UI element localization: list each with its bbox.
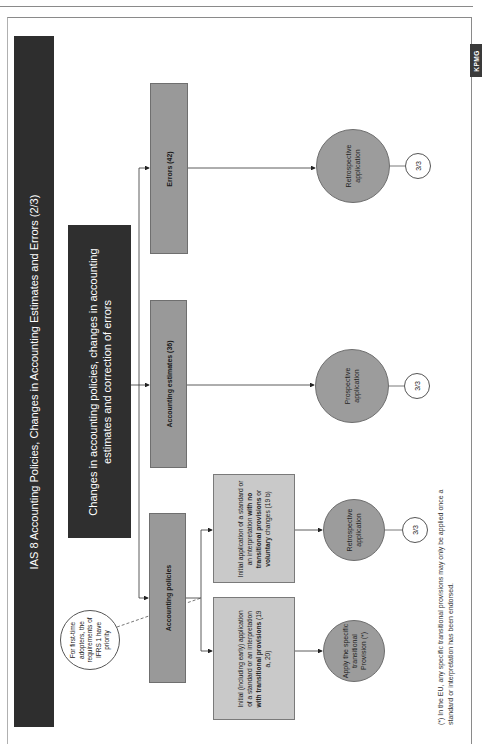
no-transitional-label: Initial application of a standard or an … <box>236 477 272 581</box>
root-box: Changes in accounting policies, changes … <box>68 225 131 538</box>
policies-box: Accounting policies <box>149 513 186 683</box>
root-label: Changes in accounting policies, changes … <box>86 237 114 527</box>
page-ref: 3/3 <box>415 161 422 171</box>
estimates-box: Accounting estimates (36) <box>150 300 187 468</box>
continue-3-3-estimates[interactable]: 3/3 <box>404 373 430 399</box>
transitional-provision-label: Apply the specific transitional Provisio… <box>341 621 368 681</box>
with-transitional-label: Initial (including early) application of… <box>236 607 272 711</box>
errors-outcome-label: Retrospective application <box>344 136 362 196</box>
errors-box: Errors (42) <box>150 83 188 254</box>
errors-label: Errors (42) <box>166 151 173 186</box>
errors-outcome-circle: Retrospective application <box>316 129 390 203</box>
policies-label: Accounting policies <box>164 565 171 632</box>
transitional-provision-circle: Apply the specific transitional Provisio… <box>323 620 385 682</box>
ifrs1-note-circle: For first-time adopters, the requirement… <box>60 610 120 670</box>
continue-3-3-policies[interactable]: 3/3 <box>402 517 428 543</box>
estimates-label: Accounting estimates (36) <box>165 340 172 427</box>
policy-retrospective-circle: Retrospective application <box>323 499 385 561</box>
footnote: (*) In the EU, any specific transitional… <box>433 470 459 720</box>
page-ref: 3/3 <box>414 381 421 391</box>
title-bar: IAS 8 Accounting Policies, Changes in Ac… <box>14 36 54 727</box>
estimates-outcome-circle: Prospective application <box>315 349 389 423</box>
page-title: IAS 8 Accounting Policies, Changes in Ac… <box>28 194 40 569</box>
estimates-outcome-label: Prospective application <box>343 356 361 416</box>
footnote-text: (*) In the EU, any specific transitional… <box>436 465 456 725</box>
continue-3-3-errors[interactable]: 3/3 <box>405 153 431 179</box>
page-ref: 3/3 <box>412 525 419 535</box>
with-transitional-box: Initial (including early) application of… <box>213 597 295 720</box>
policy-retrospective-label: Retrospective application <box>345 500 363 560</box>
ifrs1-note-text: For first-time adopters, the requirement… <box>69 613 112 667</box>
no-transitional-box: Initial application of a standard or an … <box>213 474 295 583</box>
